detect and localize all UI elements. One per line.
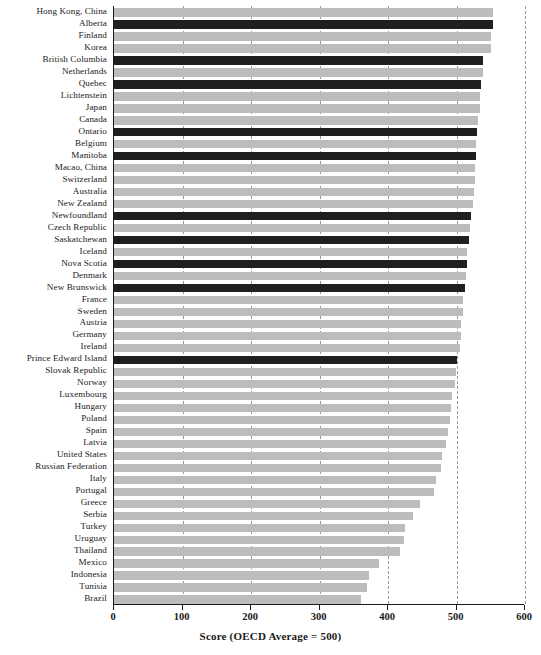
category-label: Slovak Republic bbox=[45, 365, 107, 377]
x-axis-title: Score (OECD Average = 500) bbox=[0, 630, 541, 642]
x-tick-label: 200 bbox=[242, 611, 258, 622]
category-label: Ireland bbox=[81, 341, 107, 353]
x-tick-mark bbox=[524, 605, 525, 610]
category-label: Uruguay bbox=[74, 533, 107, 545]
category-label: New Brunswick bbox=[47, 282, 107, 294]
category-label: Finland bbox=[79, 30, 108, 42]
category-label: Greece bbox=[81, 497, 107, 509]
category-label: France bbox=[82, 294, 107, 306]
category-label: Manitoba bbox=[71, 150, 107, 162]
category-label: Netherlands bbox=[62, 66, 107, 78]
category-label: Austria bbox=[80, 317, 107, 329]
x-tick-label: 400 bbox=[379, 611, 395, 622]
bar-chart: Hong Kong, ChinaAlbertaFinlandKoreaBriti… bbox=[0, 0, 541, 655]
x-tick-mark bbox=[456, 605, 457, 610]
category-label: Russian Federation bbox=[35, 461, 107, 473]
x-tick-mark bbox=[319, 605, 320, 610]
x-tick-mark bbox=[250, 605, 251, 610]
category-label: New Zealand bbox=[57, 198, 107, 210]
category-label: Latvia bbox=[83, 437, 107, 449]
category-label: Belgium bbox=[75, 138, 107, 150]
x-tick-mark bbox=[182, 605, 183, 610]
category-label: Mexico bbox=[79, 557, 107, 569]
category-label: Czech Republic bbox=[48, 222, 107, 234]
category-label: Lichtenstein bbox=[61, 90, 107, 102]
category-label: Brazil bbox=[84, 593, 107, 605]
category-label: Iceland bbox=[80, 246, 107, 258]
category-label: Sweden bbox=[78, 306, 107, 318]
category-label: Norway bbox=[77, 377, 107, 389]
x-tick-mark bbox=[387, 605, 388, 610]
category-label: Japan bbox=[86, 102, 107, 114]
category-label: Nova Scotia bbox=[61, 258, 107, 270]
category-label: Newfoundland bbox=[52, 210, 107, 222]
category-label: Thailand bbox=[74, 545, 107, 557]
category-label: Saskatchewan bbox=[54, 234, 107, 246]
x-tick-label: 500 bbox=[448, 611, 464, 622]
category-label: Switzerland bbox=[62, 174, 107, 186]
x-tick-label: 300 bbox=[311, 611, 327, 622]
category-label: Tunisia bbox=[79, 581, 107, 593]
category-label: Alberta bbox=[79, 18, 107, 30]
x-tick-label: 0 bbox=[110, 611, 115, 622]
category-label: Indonesia bbox=[71, 569, 107, 581]
category-label: Ontario bbox=[79, 126, 107, 138]
category-label: Prince Edward Island bbox=[27, 353, 107, 365]
x-tick-label: 100 bbox=[174, 611, 190, 622]
category-label: Poland bbox=[81, 413, 107, 425]
x-tick-mark bbox=[113, 605, 114, 610]
category-label: British Columbia bbox=[42, 54, 107, 66]
category-label: Denmark bbox=[72, 270, 107, 282]
category-label: Hong Kong, China bbox=[36, 6, 107, 18]
category-label: Italy bbox=[90, 473, 107, 485]
category-label: Serbia bbox=[83, 509, 107, 521]
category-label: Korea bbox=[84, 42, 107, 54]
category-label: United States bbox=[57, 449, 107, 461]
category-label: Germany bbox=[72, 329, 107, 341]
category-label: Quebec bbox=[79, 78, 107, 90]
category-label: Canada bbox=[79, 114, 107, 126]
category-label: Australia bbox=[73, 186, 107, 198]
category-label: Hungary bbox=[74, 401, 107, 413]
x-tick-label: 600 bbox=[516, 611, 532, 622]
category-label: Spain bbox=[86, 425, 107, 437]
category-axis-labels: Hong Kong, ChinaAlbertaFinlandKoreaBriti… bbox=[0, 6, 541, 605]
category-label: Luxembourg bbox=[59, 389, 107, 401]
category-label: Turkey bbox=[80, 521, 107, 533]
category-label: Macao, China bbox=[55, 162, 107, 174]
category-label: Portugal bbox=[75, 485, 107, 497]
